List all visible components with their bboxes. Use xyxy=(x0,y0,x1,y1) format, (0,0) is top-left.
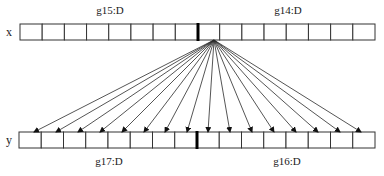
arrow xyxy=(214,40,274,132)
cell xyxy=(175,24,197,40)
cell xyxy=(353,132,375,148)
cell xyxy=(153,132,175,148)
cell xyxy=(87,24,109,40)
arrow xyxy=(214,40,318,132)
cell xyxy=(108,132,130,148)
cell xyxy=(242,24,264,40)
cell xyxy=(242,132,264,148)
group-label-g16: g16:D xyxy=(273,155,301,167)
arrow xyxy=(78,40,214,132)
cell xyxy=(64,24,86,40)
arrow xyxy=(214,40,296,132)
group-label-g15: g15:D xyxy=(96,4,124,16)
arrow xyxy=(34,40,214,132)
source-row-x xyxy=(20,23,375,41)
cell xyxy=(219,132,241,148)
arrow xyxy=(100,40,214,132)
group-label-g14: g14:D xyxy=(274,4,302,16)
cell xyxy=(220,24,242,40)
cell xyxy=(198,24,220,40)
cell xyxy=(41,132,63,148)
cell xyxy=(130,132,152,148)
cell xyxy=(264,24,286,40)
cell xyxy=(308,132,330,148)
cell xyxy=(353,24,375,40)
arrow xyxy=(208,40,214,132)
arrow xyxy=(56,40,214,132)
cell xyxy=(331,24,353,40)
row-label-x: x xyxy=(6,25,12,39)
cell xyxy=(175,132,197,148)
broadcast-arrows xyxy=(34,40,361,132)
cell xyxy=(264,132,286,148)
row-label-y: y xyxy=(6,133,12,147)
cell xyxy=(286,132,308,148)
cell xyxy=(153,24,175,40)
cell xyxy=(42,24,64,40)
cell xyxy=(64,132,86,148)
arrow xyxy=(144,40,214,132)
broadcast-diagram: x y g15:D g14:D g17:D g16:D xyxy=(0,0,384,176)
cell xyxy=(109,24,131,40)
arrow xyxy=(165,40,214,132)
cell xyxy=(308,24,330,40)
cell xyxy=(86,132,108,148)
cell xyxy=(286,24,308,40)
cell xyxy=(19,132,41,148)
arrow xyxy=(214,40,361,132)
arrow xyxy=(214,40,230,132)
cell xyxy=(20,24,42,40)
cell xyxy=(331,132,353,148)
group-label-g17: g17:D xyxy=(95,155,123,167)
target-row-y xyxy=(19,131,375,149)
cell xyxy=(197,132,219,148)
cell xyxy=(131,24,153,40)
